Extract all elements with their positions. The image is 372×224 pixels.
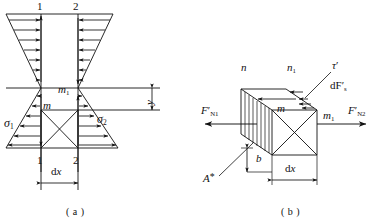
shear-arrows-top-face: [258, 92, 314, 108]
leader-tau: [305, 72, 331, 98]
label-section-2-top: 2: [73, 1, 79, 12]
label-corner-m-b: m: [277, 103, 285, 114]
caption-panel-b: ( b ): [281, 206, 300, 217]
label-y-dimension: y: [144, 100, 155, 105]
label-force-n2: F′N2: [348, 105, 365, 118]
dfs-d: dF: [330, 79, 342, 91]
label-tau-prime: τ′: [332, 60, 338, 71]
section-resultant-arrows: [41, 16, 78, 146]
sigma1-upper-arrows: [9, 20, 40, 80]
figure-root: 1 2 1 2 σ1 σ2 m m1 y dx ( a ) n n1 m m1 …: [0, 0, 372, 224]
label-sigma-2: σ2: [97, 113, 107, 127]
label-force-n1: F′N1: [201, 105, 218, 118]
plane-m1-symbol-a: m: [58, 83, 66, 95]
label-corner-n: n: [241, 62, 247, 73]
block-left-top: [241, 89, 272, 110]
label-sigma-1: σ1: [4, 117, 14, 131]
plane-m1-subscript-a: 1: [66, 89, 69, 96]
label-b-dimension: b: [256, 153, 262, 164]
corner-m1-subscript: 1: [331, 115, 334, 122]
label-dx-dimension-a: dx: [51, 166, 61, 177]
sigma-2-subscript: 2: [103, 118, 107, 127]
sigma1-upper-envelope: [6, 14, 41, 88]
area-star: *: [210, 171, 215, 182]
corner-n1-subscript: 1: [293, 67, 296, 74]
label-plane-m-a: m: [43, 100, 51, 111]
sigma-1-subscript: 1: [10, 122, 14, 131]
tau-prime-mark: ′: [336, 59, 338, 71]
dx-x-a: x: [57, 165, 62, 177]
force-n2-subscript: N2: [357, 110, 365, 117]
block-left-face-hatching: [245, 92, 269, 153]
label-corner-n1: n1: [287, 62, 296, 75]
label-plane-m1-a: m1: [58, 84, 69, 97]
force-n1-symbol: F: [201, 104, 208, 116]
area-symbol: A: [203, 172, 210, 184]
sigma2-upper-arrows: [79, 20, 110, 80]
label-section-2-bottom: 2: [73, 155, 79, 166]
force-n2-symbol: F: [348, 104, 355, 116]
label-dfs-prime: dF′s: [330, 80, 347, 93]
label-area-star: A*: [203, 172, 215, 184]
label-dx-dimension-b: dx: [285, 163, 295, 174]
label-section-1-bottom: 1: [37, 155, 43, 166]
sigma2-upper-envelope: [78, 14, 113, 88]
figure-drawing: [0, 0, 372, 224]
dfs-subscript: s: [344, 85, 347, 92]
label-corner-m1-b: m1: [323, 110, 334, 123]
label-section-1-top: 1: [37, 1, 43, 12]
dx-x-b: x: [291, 162, 296, 174]
corner-m1-symbol: m: [323, 109, 331, 121]
panel-a-drawing: [6, 14, 160, 190]
force-n1-subscript: N1: [210, 110, 218, 117]
caption-panel-a: ( a ): [66, 206, 85, 217]
